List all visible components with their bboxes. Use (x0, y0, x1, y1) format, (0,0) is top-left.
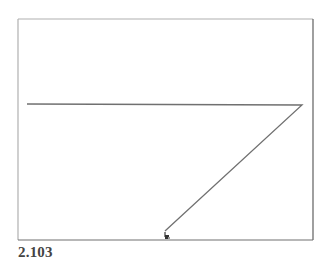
drawn-path (27, 104, 302, 231)
mouse-pointer-icon (164, 232, 170, 239)
figure-caption: 2.103 (18, 244, 53, 261)
diagram-canvas (0, 0, 328, 268)
frame-border (18, 19, 313, 240)
